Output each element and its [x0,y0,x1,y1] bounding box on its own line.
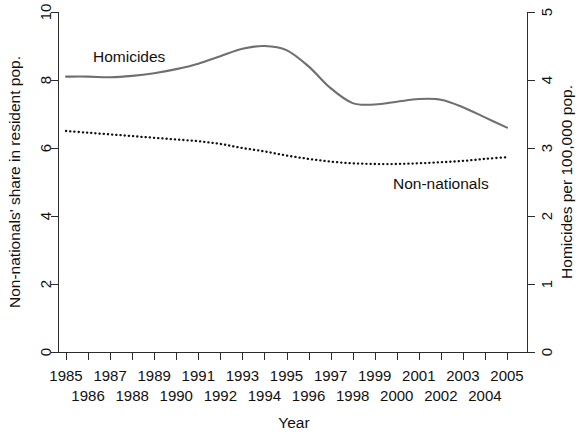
x-tick-label-1993: 1993 [226,367,259,384]
x-tick-label-1985: 1985 [49,367,82,384]
right-axis-tick-labels: 5 4 3 2 1 0 [538,8,555,356]
series-line-non-nationals [66,131,507,164]
x-tick-label-1989: 1989 [138,367,171,384]
x-tick-label-1992: 1992 [204,387,237,404]
x-tick-label-2001: 2001 [402,367,435,384]
left-tick-label-10: 10 [37,4,54,21]
x-tick-label-2002: 2002 [424,387,457,404]
series-label-homicides: Homicides [93,48,166,65]
left-tick-label-8: 8 [37,76,54,84]
x-tick-label-2000: 2000 [380,387,413,404]
left-tick-label-2: 2 [37,280,54,288]
x-tick-label-1988: 1988 [115,387,148,404]
x-axis-tick-labels-upper: 1985198719891991199319951997199920012003… [49,367,523,384]
left-axis-title: Non-nationals' share in resident pop. [6,56,23,308]
x-axis-title: Year [278,414,309,431]
x-tick-label-2005: 2005 [490,367,523,384]
series-label-non-nationals: Non-nationals [393,175,489,192]
right-axis-title: Homicides per 100,000 pop. [558,85,575,279]
x-tick-label-1990: 1990 [160,387,193,404]
left-tick-label-4: 4 [37,212,54,220]
right-tick-label-1: 1 [538,280,555,288]
left-tick-label-6: 6 [37,144,54,152]
x-tick-label-1997: 1997 [314,367,347,384]
chart-svg: 10 8 6 4 2 0 5 4 3 2 1 0 198519871989199… [0,0,588,436]
x-tick-label-1987: 1987 [93,367,126,384]
left-tick-label-0: 0 [37,348,54,356]
right-tick-label-3: 3 [538,144,555,152]
right-tick-label-0: 0 [538,348,555,356]
x-tick-label-1991: 1991 [182,367,215,384]
x-axis-tick-labels-lower: 1986198819901992199419961998200020022004 [71,387,501,404]
right-tick-label-2: 2 [538,212,555,220]
right-axis-ticks [528,13,536,353]
x-tick-label-2003: 2003 [446,367,479,384]
left-axis-ticks [51,13,59,353]
x-tick-label-1995: 1995 [270,367,303,384]
x-tick-label-1996: 1996 [292,387,325,404]
x-tick-label-1994: 1994 [248,387,281,404]
x-tick-label-1998: 1998 [336,387,369,404]
chart-figure: 10 8 6 4 2 0 5 4 3 2 1 0 198519871989199… [0,0,588,436]
x-tick-label-1986: 1986 [71,387,104,404]
right-tick-label-5: 5 [538,8,555,16]
x-tick-label-1999: 1999 [358,367,391,384]
x-axis-ticks [67,353,508,361]
x-tick-label-2004: 2004 [468,387,501,404]
left-axis-tick-labels: 10 8 6 4 2 0 [37,4,54,357]
right-tick-label-4: 4 [538,76,555,84]
